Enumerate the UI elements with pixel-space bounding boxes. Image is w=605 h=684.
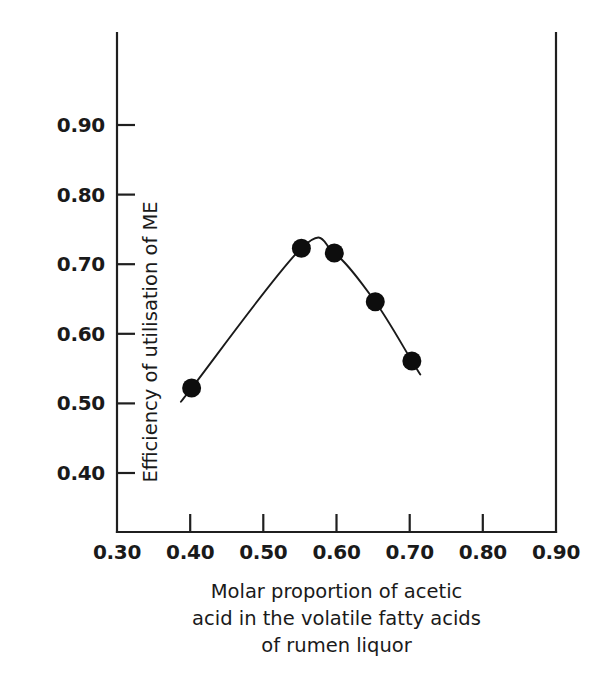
x-tick-label-0.40: 0.40 bbox=[166, 540, 214, 564]
y-tick-label-0.60: 0.60 bbox=[20, 322, 105, 346]
x-tick-label-0.60: 0.60 bbox=[312, 540, 360, 564]
data-point bbox=[292, 239, 311, 258]
x-tick-label-0.80: 0.80 bbox=[459, 540, 507, 564]
y-tick-label-0.90: 0.90 bbox=[20, 113, 105, 137]
y-axis-ticks bbox=[117, 125, 135, 473]
y-tick-label-0.40: 0.40 bbox=[20, 461, 105, 485]
x-tick-label-0.90: 0.90 bbox=[532, 540, 580, 564]
x-tick-label-0.70: 0.70 bbox=[386, 540, 434, 564]
data-curve bbox=[181, 237, 420, 401]
chart-figure: 0.90 0.80 0.70 0.60 0.50 0.40 0.30 0.40 … bbox=[0, 0, 605, 684]
x-axis-title-line-1: Molar proportion of acetic bbox=[117, 578, 556, 605]
x-axis-title-line-2: acid in the volatile fatty acids bbox=[117, 605, 556, 632]
data-point bbox=[182, 379, 201, 398]
y-axis-title: Efficiency of utilisation of ME bbox=[139, 201, 162, 482]
x-axis-ticks bbox=[190, 514, 483, 532]
data-point bbox=[366, 292, 385, 311]
x-axis-title: Molar proportion of acetic acid in the v… bbox=[117, 578, 556, 659]
y-tick-label-0.80: 0.80 bbox=[20, 183, 105, 207]
y-tick-label-0.50: 0.50 bbox=[20, 391, 105, 415]
data-point bbox=[402, 351, 421, 370]
x-tick-label-0.30: 0.30 bbox=[93, 540, 141, 564]
y-tick-label-0.70: 0.70 bbox=[20, 252, 105, 276]
x-tick-label-0.50: 0.50 bbox=[239, 540, 287, 564]
data-point bbox=[325, 244, 344, 263]
x-axis-title-line-3: of rumen liquor bbox=[117, 632, 556, 659]
